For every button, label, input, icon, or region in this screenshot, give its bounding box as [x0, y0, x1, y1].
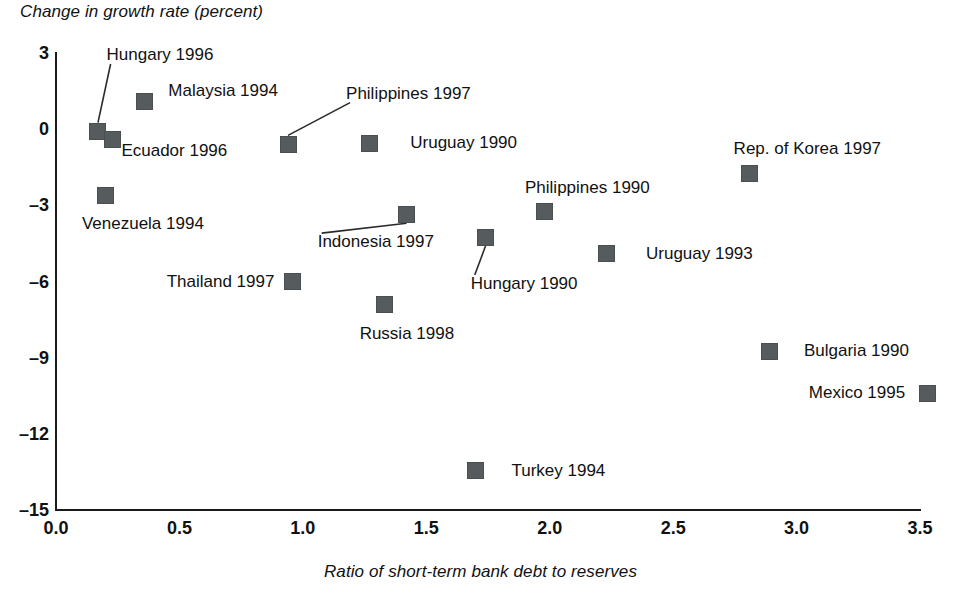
data-point-label: Russia 1998	[360, 324, 455, 344]
data-point-label: Malaysia 1994	[168, 81, 278, 101]
data-point-marker[interactable]	[104, 131, 121, 148]
data-point-marker[interactable]	[376, 296, 393, 313]
data-point-marker[interactable]	[477, 229, 494, 246]
plot-area: Hungary 1996Malaysia 1994Ecuador 1996Ven…	[0, 0, 961, 595]
data-point-marker[interactable]	[467, 462, 484, 479]
data-point-label: Mexico 1995	[809, 383, 905, 403]
data-point-label: Ecuador 1996	[121, 141, 227, 161]
leader-line	[0, 0, 961, 595]
data-point-marker[interactable]	[136, 93, 153, 110]
data-point-marker[interactable]	[919, 385, 936, 402]
data-point-label: Bulgaria 1990	[804, 341, 909, 361]
data-point-marker[interactable]	[361, 135, 378, 152]
leader-line	[0, 0, 961, 595]
data-point-label: Turkey 1994	[511, 461, 605, 481]
data-point-label: Philippines 1997	[346, 84, 471, 104]
data-point-marker[interactable]	[97, 187, 114, 204]
data-point-label: Uruguay 1993	[646, 244, 753, 264]
data-point-label: Indonesia 1997	[318, 232, 434, 252]
data-point-marker[interactable]	[741, 165, 758, 182]
data-point-marker[interactable]	[536, 203, 553, 220]
data-point-marker[interactable]	[284, 273, 301, 290]
x-axis-title: Ratio of short-term bank debt to reserve…	[0, 562, 961, 582]
leader-line	[0, 0, 961, 595]
data-point-label: Thailand 1997	[167, 272, 275, 292]
data-point-label: Rep. of Korea 1997	[734, 139, 881, 159]
data-point-label: Venezuela 1994	[82, 214, 204, 234]
data-point-marker[interactable]	[598, 245, 615, 262]
data-point-marker[interactable]	[280, 136, 297, 153]
data-point-marker[interactable]	[761, 343, 778, 360]
data-point-label: Hungary 1990	[471, 274, 578, 294]
data-point-label: Uruguay 1990	[410, 133, 517, 153]
leader-line	[0, 0, 961, 595]
data-point-marker[interactable]	[398, 206, 415, 223]
data-point-label: Hungary 1996	[107, 45, 214, 65]
scatter-chart-figure: Change in growth rate (percent) 30–3–6–9…	[0, 0, 961, 595]
data-point-label: Philippines 1990	[525, 178, 650, 198]
